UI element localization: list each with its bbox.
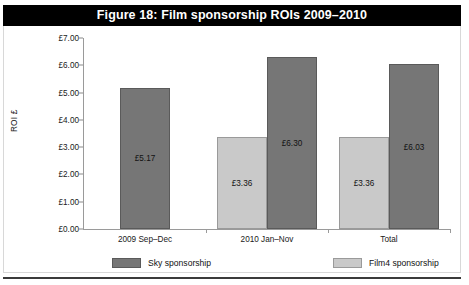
bar-sky: £5.17	[120, 88, 170, 229]
figure-title-bar: Figure 18: Film sponsorship ROIs 2009–20…	[3, 5, 461, 26]
legend-swatch-sky	[112, 258, 141, 268]
y-axis-tick-label: £5.00	[24, 88, 79, 97]
page-title: Figure 18: Film sponsorship ROIs 2009–20…	[97, 9, 367, 22]
y-axis-tick-label: £4.00	[24, 115, 79, 124]
legend-label: Sky sponsorship	[148, 258, 211, 268]
bar-value-label: £5.17	[121, 154, 169, 163]
bar-film4: £3.36	[339, 137, 389, 229]
y-axis-tick-label: £3.00	[24, 143, 79, 152]
x-axis-tick-mark	[328, 229, 329, 233]
x-axis-category-label: Total	[380, 235, 397, 244]
bar-film4: £3.36	[217, 137, 267, 229]
bar-value-label: £6.03	[390, 143, 438, 152]
bar-sky: £6.30	[267, 57, 317, 229]
y-axis-tick-label: £7.00	[24, 34, 79, 43]
figure-bottom-rule	[3, 277, 461, 279]
bar-value-label: £3.36	[340, 179, 388, 188]
x-axis-tick-mark	[450, 229, 451, 233]
plot-wrapper: ROI £ £0.00£1.00£2.00£3.00£4.00£5.00£6.0…	[0, 26, 469, 248]
figure-container: Figure 18: Film sponsorship ROIs 2009–20…	[0, 0, 469, 285]
y-axis-label: ROI £	[10, 110, 19, 132]
x-axis-tick-mark	[206, 229, 207, 233]
x-axis-line	[83, 229, 450, 230]
x-axis-category-label: 2010 Jan–Nov	[241, 235, 294, 244]
bar-value-label: £6.30	[268, 139, 316, 148]
y-axis-tick-label: £6.00	[24, 61, 79, 70]
bar-value-label: £3.36	[218, 179, 266, 188]
y-axis-tick-labels: £0.00£1.00£2.00£3.00£4.00£5.00£6.00£7.00	[23, 26, 79, 248]
legend-item: Film4 sponsorship	[333, 258, 439, 268]
legend-swatch-film4	[333, 258, 362, 268]
y-axis-tick-label: £0.00	[24, 225, 79, 234]
plot-area: £5.17£3.36£6.30£3.36£6.03	[84, 38, 450, 229]
legend-item: Sky sponsorship	[112, 258, 211, 268]
x-axis-category-label: 2009 Sep–Dec	[118, 235, 172, 244]
y-axis-tick-label: £2.00	[24, 170, 79, 179]
y-axis-tick-label: £1.00	[24, 197, 79, 206]
chart-legend: Sky sponsorshipFilm4 sponsorship	[0, 258, 469, 274]
legend-label: Film4 sponsorship	[369, 258, 439, 268]
bar-sky: £6.03	[389, 64, 439, 229]
